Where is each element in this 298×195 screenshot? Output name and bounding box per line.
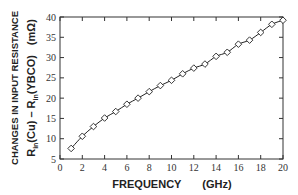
y-tick-label: 20 xyxy=(46,93,56,104)
x-tick-label: 2 xyxy=(80,162,85,173)
x-tick-label: 6 xyxy=(124,162,129,173)
diamond-marker-icon xyxy=(179,71,186,78)
y-tick-label: 40 xyxy=(46,12,56,23)
y-tick-label: 30 xyxy=(46,52,56,63)
y-tick-label: 35 xyxy=(46,32,56,43)
x-tick-label: 20 xyxy=(278,162,288,173)
diamond-marker-icon xyxy=(213,53,220,60)
diamond-marker-icon xyxy=(224,49,231,56)
x-axis-title: FREQUENCY (GHz) xyxy=(112,178,232,190)
diamond-marker-icon xyxy=(246,37,253,44)
diamond-marker-icon xyxy=(112,108,119,115)
x-tick-label: 8 xyxy=(147,162,152,173)
y-axis-ticks: 510152025303540 xyxy=(46,12,283,165)
y-tick-label: 15 xyxy=(46,113,56,124)
x-axis-title-main: FREQUENCY xyxy=(112,178,182,190)
diamond-marker-icon xyxy=(157,82,164,89)
y-tick-label: 5 xyxy=(51,154,56,165)
x-tick-label: 18 xyxy=(256,162,266,173)
y-axis-title-line1: CHANGES IN INPUT RESISTANCE xyxy=(9,11,20,165)
y-tick-label: 10 xyxy=(46,133,56,144)
diamond-marker-icon xyxy=(146,88,153,95)
chart: 02468101214161820 510152025303540 FREQUE… xyxy=(0,0,298,195)
diamond-marker-icon xyxy=(101,115,108,122)
diamond-marker-icon xyxy=(135,95,142,102)
y-tick-label: 25 xyxy=(46,72,56,83)
x-tick-label: 4 xyxy=(102,162,107,173)
diamond-marker-icon xyxy=(235,41,242,48)
x-tick-label: 12 xyxy=(189,162,199,173)
diamond-marker-icon xyxy=(280,17,287,24)
x-tick-label: 10 xyxy=(167,162,177,173)
diamond-marker-icon xyxy=(202,61,209,68)
diamond-marker-icon xyxy=(124,101,131,108)
diamond-marker-icon xyxy=(269,21,276,28)
diamond-marker-icon xyxy=(168,77,175,84)
x-tick-label: 0 xyxy=(58,162,63,173)
x-tick-label: 14 xyxy=(211,162,221,173)
x-axis-ticks: 02468101214161820 xyxy=(58,17,289,173)
y-axis-title-line2: Rin(Cu) – Rin(YBCO)(mΩ) xyxy=(25,19,39,157)
diamond-marker-icon xyxy=(191,65,198,72)
x-tick-label: 16 xyxy=(233,162,243,173)
x-axis-title-unit: (GHz) xyxy=(202,178,232,190)
